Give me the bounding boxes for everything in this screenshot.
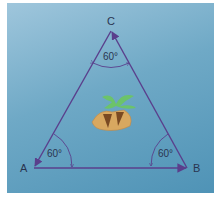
angle-label-b: 60°: [158, 148, 173, 159]
island-palm-icon: [92, 95, 136, 131]
angle-arc-c: [93, 63, 129, 68]
vertex-label-a: A: [20, 162, 27, 174]
vertex-label-b: B: [193, 162, 200, 174]
vertex-label-c: C: [107, 15, 115, 27]
triangle-diagram: [0, 0, 219, 199]
angle-label-a: 60°: [47, 148, 62, 159]
angle-label-c: 60°: [103, 51, 118, 62]
edge-ca: [35, 31, 111, 166]
